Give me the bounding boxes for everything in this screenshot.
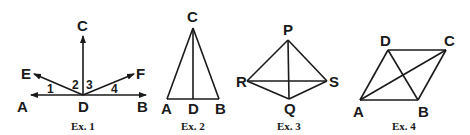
caption-ex3: Ex. 3	[277, 120, 301, 132]
label-a: A	[353, 103, 364, 120]
figure-ex2: C A D B Ex. 2	[161, 8, 226, 132]
diagonal-db	[388, 50, 418, 100]
label-b: B	[418, 103, 429, 120]
label-e: E	[21, 65, 31, 82]
label-q: Q	[284, 100, 296, 117]
figure-ex1: C E F A D B 1 2 3 4 Ex. 1	[17, 17, 148, 132]
label-a: A	[161, 100, 172, 117]
caption-ex1: Ex. 1	[71, 120, 95, 132]
diagonal-pq	[288, 40, 289, 99]
geometry-exercises: C E F A D B 1 2 3 4 Ex. 1 C A D B Ex. 2 …	[0, 0, 470, 135]
side-cb	[193, 28, 219, 99]
label-c: C	[77, 17, 88, 34]
figure-ex4: D C A B Ex. 4	[353, 32, 455, 132]
label-c: C	[444, 32, 455, 49]
label-c: C	[187, 8, 198, 25]
side-ps	[288, 40, 327, 81]
angle-4: 4	[111, 82, 118, 96]
side-pr	[247, 40, 288, 81]
side-sq	[289, 81, 327, 99]
label-p: P	[283, 21, 293, 38]
figure-ex3: P R S Q Ex. 3	[236, 21, 339, 132]
label-b: B	[137, 98, 148, 115]
caption-ex2: Ex. 2	[181, 120, 205, 132]
caption-ex4: Ex. 4	[392, 120, 416, 132]
label-d: D	[78, 98, 89, 115]
angle-1: 1	[47, 82, 54, 96]
label-r: R	[236, 73, 247, 90]
label-s: S	[329, 73, 339, 90]
label-d: D	[380, 32, 391, 49]
label-a: A	[17, 98, 28, 115]
angle-2: 2	[72, 78, 79, 92]
label-d: D	[188, 100, 199, 117]
side-rq	[247, 81, 289, 99]
label-b: B	[215, 100, 226, 117]
label-f: F	[136, 65, 145, 82]
side-ca	[167, 28, 193, 99]
angle-3: 3	[86, 78, 93, 92]
